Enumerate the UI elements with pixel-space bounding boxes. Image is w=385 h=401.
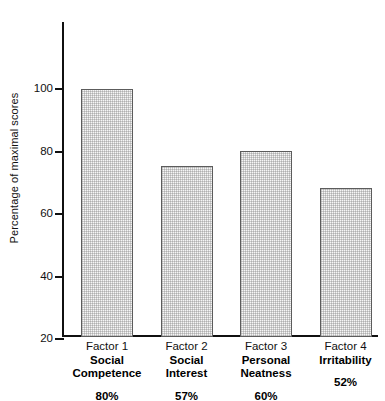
y-tick-label: 80: [40, 145, 53, 157]
bar-factor-2[interactable]: [161, 166, 213, 337]
y-axis-title: Percentage of maximal scores: [0, 0, 28, 336]
x-label-name-line1: Irritability: [286, 354, 385, 368]
x-label-factor: Factor 4: [286, 340, 385, 354]
x-label-percent: 52%: [286, 376, 385, 390]
bar-chart: Percentage of maximal scores 100 80 60 4…: [0, 0, 385, 401]
bar-factor-3[interactable]: [240, 151, 292, 337]
bar-factor-4[interactable]: [320, 188, 372, 337]
x-label-percent: 60%: [206, 390, 326, 401]
y-axis-title-text: Percentage of maximal scores: [8, 93, 20, 244]
y-tick-label: 100: [34, 82, 53, 94]
x-label-group-4: Factor 4 Irritability 52%: [286, 340, 385, 390]
bar-factor-1[interactable]: [81, 89, 133, 337]
bars-layer: [62, 22, 378, 337]
y-tick-label: 60: [40, 207, 53, 219]
y-tick-label: 40: [40, 270, 53, 282]
x-axis-labels: Factor 1 Social Competence 80% Factor 2 …: [62, 340, 378, 401]
plot-area: 100 80 60 40 20: [62, 18, 378, 338]
